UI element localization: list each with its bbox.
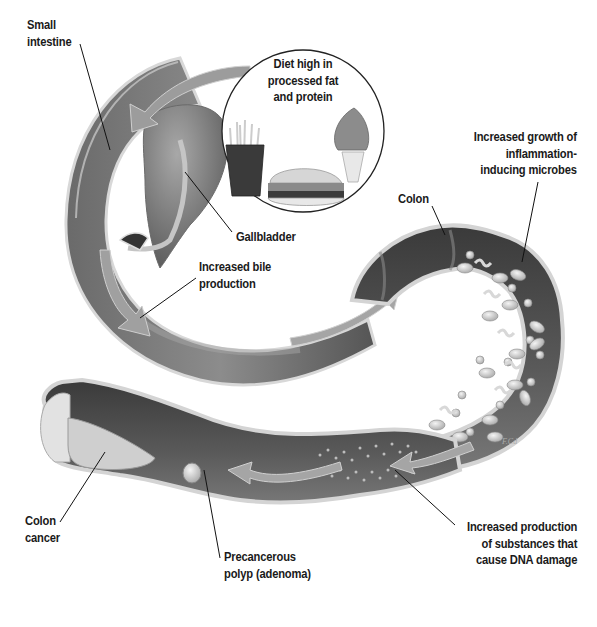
- label-dna-damage: Increased production of substances that …: [467, 519, 577, 569]
- label-increased-bile: Increased bile production: [199, 259, 271, 292]
- label-microbes: Increased growth of inflammation- induci…: [474, 129, 577, 179]
- label-colon-cancer: Colon cancer: [25, 513, 60, 546]
- label-gallbladder: Gallbladder: [236, 229, 296, 246]
- artist-signature: F.Cd: [501, 437, 518, 446]
- label-small-intestine: Small intestine: [27, 17, 71, 50]
- label-diet: Diet high in processed fat and protein: [256, 56, 351, 106]
- label-precancerous-polyp: Precancerous polyp (adenoma): [224, 549, 311, 582]
- label-colon: Colon: [398, 191, 429, 208]
- hamburger-icon: [268, 169, 344, 206]
